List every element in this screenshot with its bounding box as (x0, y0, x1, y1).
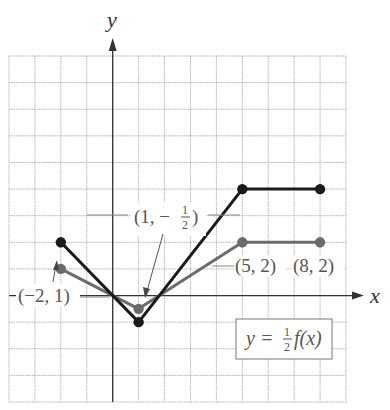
label-8-2: (8, 2) (292, 255, 344, 277)
function-graph: y x (−2, 1) (1, − 1 2 ) (5, 2) (8, 2) y … (0, 0, 390, 410)
f-curve-point (133, 317, 143, 327)
f-curve-point (237, 184, 247, 194)
f-curve-point (56, 237, 66, 247)
equation-box: y = 1 2 f(x) (236, 319, 332, 359)
half-f-curve-point (315, 237, 325, 247)
label-1-neg-half-suffix: ) (192, 206, 198, 228)
label-1-neg-half-num: 1 (182, 203, 188, 217)
label-1-neg-half: (1, − 1 2 ) (87, 202, 240, 298)
x-axis-arrow-icon (352, 292, 364, 300)
label-5-2: (5, 2) (212, 255, 286, 277)
label-1-neg-half-prefix: (1, − (134, 206, 170, 228)
f-curve-point (315, 184, 325, 194)
half-f-curve-point (237, 237, 247, 247)
y-axis-label: y (105, 7, 117, 32)
equation-den: 2 (284, 340, 290, 354)
label-1-neg-half-den: 2 (182, 218, 188, 232)
equation-suffix: f(x) (294, 327, 322, 350)
equation-prefix: y = (244, 327, 273, 350)
x-axis-label: x (369, 283, 380, 308)
label-neg2-1-text: (−2, 1) (18, 285, 70, 307)
y-axis-arrow-icon (109, 38, 117, 51)
half-f-curve-point (133, 304, 143, 314)
label-8-2-text: (8, 2) (293, 255, 334, 277)
equation-num: 1 (284, 325, 290, 339)
label-5-2-text: (5, 2) (235, 255, 276, 277)
